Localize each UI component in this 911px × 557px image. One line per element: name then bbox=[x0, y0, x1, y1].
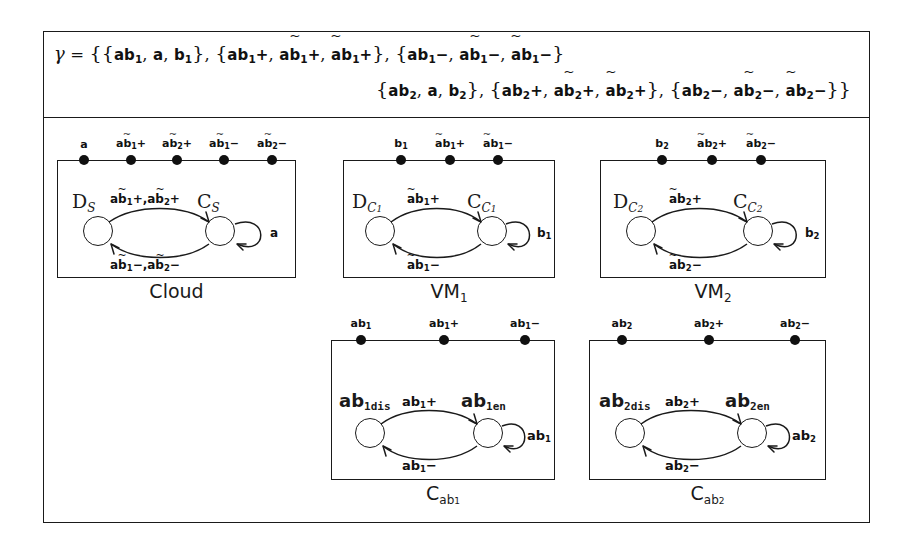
formula-line-1: γ = {{ab1, a, b1}, {ab1+, ab1+, ab1+}, {… bbox=[54, 38, 859, 74]
port-label: ab1− bbox=[209, 137, 239, 151]
component-vm2[interactable]: b2 ab2+ ab2− DC2 CC2 ab2+ ab2− b2 bbox=[600, 160, 826, 278]
port-label: ab2+ bbox=[694, 317, 724, 331]
port-label: b1 bbox=[394, 137, 407, 151]
port-label: ab1− bbox=[483, 137, 513, 151]
vm1-transition-arrows bbox=[343, 160, 555, 278]
component-connector-ab1[interactable]: ab1 ab1+ ab1− ab1dis ab1en ab1+ ab1− ab1 bbox=[331, 340, 555, 480]
port-label: ab1+ bbox=[116, 137, 146, 151]
port-label: a bbox=[80, 138, 87, 151]
port-label: ab2+ bbox=[162, 137, 192, 151]
port-label: ab1+ bbox=[435, 137, 465, 151]
interaction-formula-band: γ = {{ab1, a, b1}, {ab1+, ab1+, ab1+}, {… bbox=[44, 32, 869, 118]
cab1-transition-arrows bbox=[331, 340, 555, 480]
gamma-symbol: γ bbox=[54, 43, 65, 64]
caption-vm1: VM1 bbox=[343, 280, 555, 305]
port-label: ab2− bbox=[257, 137, 287, 151]
equals-sign: = bbox=[70, 45, 89, 64]
port-label: b2 bbox=[655, 137, 668, 151]
port-label: ab2− bbox=[746, 137, 776, 151]
port-label: ab2 bbox=[612, 317, 633, 331]
caption-cab2: Cab2 bbox=[589, 482, 826, 507]
arc-minus bbox=[111, 244, 209, 258]
component-diagram-area: a ab1+ ab2+ ab1− ab2− DS CS bbox=[44, 118, 869, 522]
port-label: ab2+ bbox=[697, 137, 727, 151]
caption-cloud: Cloud bbox=[57, 280, 296, 302]
cab2-transition-arrows bbox=[589, 340, 826, 480]
port-label: ab1 bbox=[351, 317, 372, 331]
port-label: ab1− bbox=[510, 317, 540, 331]
caption-vm2: VM2 bbox=[600, 280, 826, 305]
arc-self bbox=[235, 222, 261, 247]
caption-cab1: Cab1 bbox=[331, 482, 555, 507]
arc-plus bbox=[109, 209, 209, 223]
component-vm1[interactable]: b1 ab1+ ab1− DC1 CC1 ab1+ ab1− b1 bbox=[343, 160, 555, 278]
figure-outer-frame: γ = {{ab1, a, b1}, {ab1+, ab1+, ab1+}, {… bbox=[43, 31, 870, 523]
component-cloud[interactable]: a ab1+ ab2+ ab1− ab2− DS CS bbox=[57, 160, 296, 278]
port-label: ab2− bbox=[780, 317, 810, 331]
vm2-transition-arrows bbox=[600, 160, 826, 278]
component-connector-ab2[interactable]: ab2 ab2+ ab2− ab2dis ab2en ab2+ ab2− ab2 bbox=[589, 340, 826, 480]
formula-line-2: {ab2, a, b2}, {ab2+, ab2+, ab2+}, {ab2−,… bbox=[54, 74, 859, 110]
cloud-transition-arrows bbox=[57, 160, 296, 278]
port-label: ab1+ bbox=[429, 317, 459, 331]
